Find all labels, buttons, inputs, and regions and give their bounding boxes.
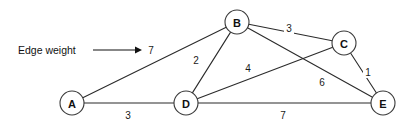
edge-weight-d-c: 4 <box>245 63 251 74</box>
edge-weight-b-d: 2 <box>193 55 199 66</box>
nodes-group: ABCDE <box>60 10 395 115</box>
node-label-e: E <box>379 98 386 110</box>
graph-node-c[interactable]: C <box>332 31 356 55</box>
node-label-c: C <box>340 38 348 50</box>
graph-edge-a-b <box>83 27 226 97</box>
edge-weight-annotation: Edge weight <box>18 44 142 56</box>
node-label-a: A <box>68 98 76 110</box>
graph-node-b[interactable]: B <box>225 10 249 34</box>
edge-weight-annotation-label: Edge weight <box>18 44 76 56</box>
graph-edge-d-c <box>197 47 333 98</box>
edge-weight-b-c: 3 <box>286 23 292 34</box>
node-label-d: D <box>182 98 190 110</box>
annotation-arrowhead-icon <box>135 47 142 54</box>
edge-weight-a-d: 3 <box>125 110 131 121</box>
edge-weight-d-e: 7 <box>280 110 286 121</box>
edge-weight-c-e: 1 <box>365 67 371 78</box>
graph-figure: ABCDE 73236471 Edge weight <box>0 0 413 130</box>
graph-node-d[interactable]: D <box>174 91 198 115</box>
graph-canvas: ABCDE 73236471 Edge weight <box>0 0 413 130</box>
edge-weight-b-e: 6 <box>319 77 325 88</box>
edge-weight-a-b: 7 <box>148 45 154 56</box>
graph-node-e[interactable]: E <box>371 91 395 115</box>
node-label-b: B <box>233 17 241 29</box>
edges-group <box>83 24 377 103</box>
graph-node-a[interactable]: A <box>60 91 84 115</box>
